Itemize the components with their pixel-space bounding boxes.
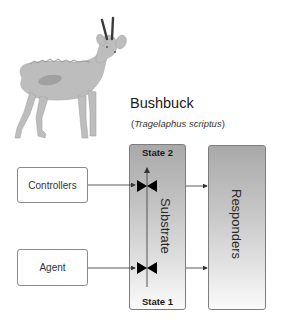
controllers-box: Controllers: [17, 167, 88, 203]
substrate-label: Substrate: [158, 198, 173, 254]
state-2-label: State 2: [129, 147, 186, 158]
species-common-name: Bushbuck: [130, 95, 194, 111]
species-latin-name: (Tragelaphus scriptus): [131, 118, 225, 129]
agent-label: Agent: [39, 262, 65, 273]
latin-name-italic: Tragelaphus scriptus: [134, 118, 221, 129]
agent-box: Agent: [17, 249, 88, 286]
antelope-body: [15, 33, 128, 138]
bushbuck-illustration: [0, 0, 140, 142]
state-1-label: State 1: [129, 296, 186, 307]
controllers-label: Controllers: [28, 180, 76, 191]
responders-label: Responders: [229, 189, 244, 259]
